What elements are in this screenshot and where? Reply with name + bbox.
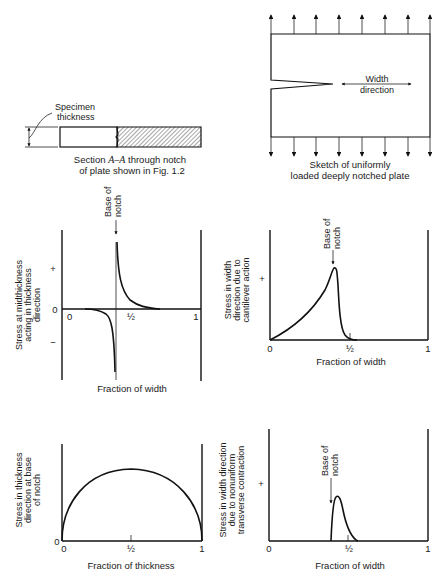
x-axis-label: Fraction of width xyxy=(315,560,385,571)
specimen-label-1: Specimen xyxy=(55,102,95,112)
plate-caption-1: Sketch of uniformly xyxy=(310,159,391,170)
chart-midthickness-stress: Base of notch + 0 − 0 ½ 1 Fraction of wi… xyxy=(14,186,201,394)
figure-canvas: Specimen thickness Section A–A through n… xyxy=(0,0,442,577)
chart-cantilever-stress: Base of notch + 0 ½ 1 Fraction of width … xyxy=(223,218,431,367)
plate-caption-2: loaded deeply notched plate xyxy=(291,170,410,181)
y-axis-label-3: direction xyxy=(32,288,42,322)
load-arrows-top xyxy=(271,15,430,34)
stress-curve xyxy=(331,496,358,541)
y-tick-plus: + xyxy=(50,263,56,274)
x-tick-half: ½ xyxy=(127,543,135,554)
x-tick-1: 1 xyxy=(193,311,198,322)
load-arrows-bottom xyxy=(271,137,430,156)
section-caption-2: of plate shown in Fig. 1.2 xyxy=(79,165,185,176)
y-axis-label-3: transverse contraction xyxy=(236,446,246,535)
notched-plate xyxy=(271,34,430,137)
x-tick-0: 0 xyxy=(67,311,72,322)
section-hatched-block xyxy=(116,127,201,147)
thickness-dimension xyxy=(25,113,58,147)
section-caption-1: Section A–A through notch xyxy=(74,154,186,165)
chart-transverse-contraction-stress: Base of notch + 0 ½ 1 Fraction of width … xyxy=(218,429,431,571)
section-plain-block xyxy=(60,127,117,147)
stress-curve xyxy=(62,469,202,541)
notch-label-2: notch xyxy=(330,454,340,476)
width-label-1: Width xyxy=(365,74,388,84)
x-tick-1: 1 xyxy=(199,543,204,554)
x-tick-0: 0 xyxy=(61,543,66,554)
y-tick-minus: − xyxy=(50,337,56,348)
notch-label-1: Base of xyxy=(320,445,330,476)
x-axis-label: Fraction of thickness xyxy=(87,560,174,571)
x-axis-label: Fraction of width xyxy=(97,383,167,394)
width-label-2: direction xyxy=(360,85,394,95)
plate-sketch: Width direction Sketch of uniformly load… xyxy=(271,15,430,181)
y-tick-zero: 0 xyxy=(52,304,57,315)
notch-label-1: Base of xyxy=(103,186,113,217)
notch-label-1: Base of xyxy=(322,218,332,249)
y-axis-label-3: cantilever action xyxy=(241,257,251,322)
x-axis-label: Fraction of width xyxy=(316,356,386,367)
specimen-label-2: thickness xyxy=(57,112,95,122)
y-tick-plus: + xyxy=(259,273,265,284)
stress-curve-negative xyxy=(85,309,115,372)
stress-curve-positive xyxy=(117,242,160,309)
x-tick-0: 0 xyxy=(267,343,272,354)
y-tick-plus: + xyxy=(258,478,264,489)
section-sketch: Specimen thickness Section A–A through n… xyxy=(25,102,201,176)
chart-thickness-stress: 0 0 ½ 1 Fraction of thickness Stress in … xyxy=(14,444,205,571)
x-tick-1: 1 xyxy=(425,543,430,554)
x-tick-1: 1 xyxy=(425,343,430,354)
notch-label-2: notch xyxy=(332,227,342,249)
notch-label-2: notch xyxy=(113,195,123,217)
stress-curve xyxy=(270,268,357,340)
y-axis-label-3: of notch xyxy=(32,474,42,506)
y-tick-zero: 0 xyxy=(54,536,59,547)
x-tick-half: ½ xyxy=(127,311,135,322)
x-tick-half: ½ xyxy=(346,343,354,354)
x-tick-0: 0 xyxy=(266,543,271,554)
x-tick-half: ½ xyxy=(345,543,353,554)
